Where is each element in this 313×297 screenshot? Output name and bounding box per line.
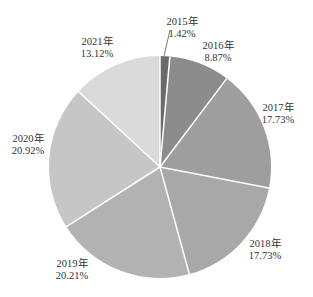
slice-label-year: 2019年 [50,258,94,270]
slice-label-2016: 2016年8.87% [196,40,240,64]
slice-label-year: 2018年 [243,238,287,250]
slice-label-2021: 2021年13.12% [75,36,119,60]
slice-label-year: 2016年 [196,40,240,52]
slice-label-percent: 20.92% [6,145,50,157]
slice-label-year: 2021年 [75,36,119,48]
slice-label-year: 2017年 [256,102,300,114]
slice-label-percent: 1.42% [160,28,204,40]
slice-label-year: 2015年 [160,16,204,28]
slice-label-year: 2020年 [6,133,50,145]
slice-label-percent: 17.73% [256,114,300,126]
slice-label-percent: 13.12% [75,48,119,60]
slice-label-percent: 20.21% [50,270,94,282]
slice-label-percent: 8.87% [196,52,240,64]
slice-label-2020: 2020年20.92% [6,133,50,157]
slice-label-2017: 2017年17.73% [256,102,300,126]
slice-label-2018: 2018年17.73% [243,238,287,262]
slice-label-percent: 17.73% [243,250,287,262]
slice-label-2019: 2019年20.21% [50,258,94,282]
slice-label-2015: 2015年1.42% [160,16,204,40]
